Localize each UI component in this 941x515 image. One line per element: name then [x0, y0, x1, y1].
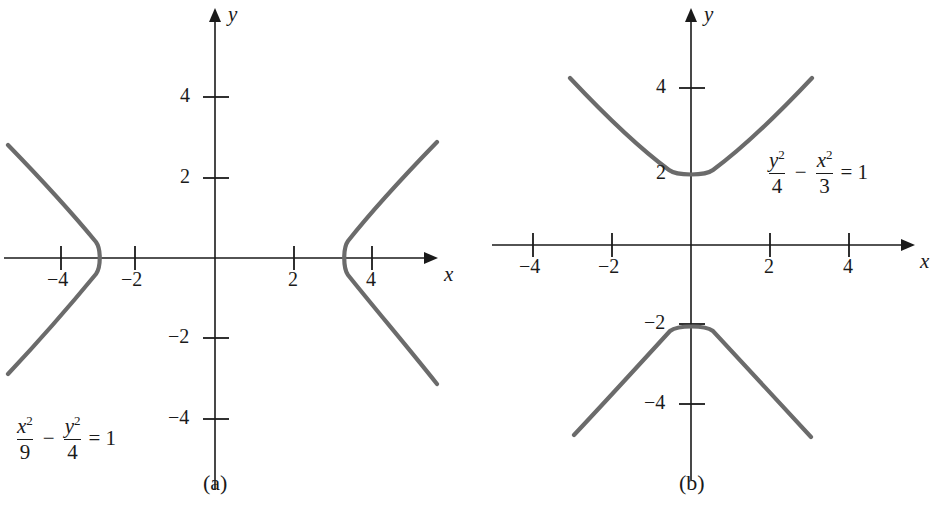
equation-operator: − [41, 426, 57, 451]
equation-num-var-2: y [65, 414, 74, 438]
y-axis-arrowhead [685, 8, 697, 22]
panel-b: −4 −2 2 4 4 2 −2 −4 x y y2 4 − x2 3 = 1 … [470, 0, 941, 515]
equation-num-exp-2: 2 [74, 413, 81, 428]
x-axis-label: x [444, 262, 453, 287]
equation-num-var-2: x [817, 148, 826, 172]
equation-denominator-1: 4 [769, 173, 786, 198]
hyperbola-right-branch [344, 142, 437, 384]
hyperbola-left-branch [8, 145, 100, 374]
y-axis-label: y [228, 2, 237, 27]
equation-numerator-2: y2 [62, 414, 84, 439]
y-tick-label-4: 4 [180, 84, 190, 107]
x-tick-label-4: 4 [843, 255, 853, 278]
y-tick-label--4: −4 [168, 406, 189, 429]
equation-denominator-2: 3 [816, 173, 833, 198]
panel-b-plot [470, 0, 941, 515]
panel-b-label: (b) [679, 470, 705, 496]
equation-operator: − [793, 160, 809, 185]
equation-equals: = 1 [841, 160, 869, 185]
x-tick-label-2: 2 [288, 268, 298, 291]
y-tick-label--4: −4 [644, 391, 665, 414]
x-axis-arrowhead [901, 239, 915, 251]
equation-num-exp-2: 2 [826, 147, 833, 162]
x-axis-label: x [920, 249, 929, 274]
equation-numerator-1: x2 [14, 414, 36, 439]
y-tick-label-4: 4 [656, 75, 666, 98]
equation-num-exp-1: 2 [26, 413, 33, 428]
y-tick-label--2: −2 [644, 311, 665, 334]
x-tick-label--4: −4 [519, 255, 540, 278]
panel-a: −4 −2 2 4 4 2 −2 −4 x y x2 9 − y2 4 = 1 … [0, 0, 470, 515]
panel-a-equation: x2 9 − y2 4 = 1 [14, 414, 116, 463]
equation-denominator-1: 9 [17, 439, 34, 464]
panel-b-equation: y2 4 − x2 3 = 1 [766, 148, 868, 197]
x-tick-label--2: −2 [598, 255, 619, 278]
x-tick-label-2: 2 [764, 255, 774, 278]
equation-fraction-1: y2 4 [766, 148, 788, 197]
y-tick-label-2: 2 [180, 165, 190, 188]
hyperbola-lower-branch [574, 327, 811, 438]
equation-fraction-2: x2 3 [814, 148, 836, 197]
equation-numerator-1: y2 [766, 148, 788, 173]
equation-fraction-1: x2 9 [14, 414, 36, 463]
equation-num-var-1: x [17, 414, 26, 438]
equation-fraction-2: y2 4 [62, 414, 84, 463]
y-tick-label-2: 2 [656, 161, 666, 184]
hyperbola-figure: −4 −2 2 4 4 2 −2 −4 x y x2 9 − y2 4 = 1 … [0, 0, 941, 515]
panel-a-label: (a) [203, 470, 227, 496]
y-axis-label: y [704, 2, 713, 27]
y-axis-arrowhead [209, 8, 221, 22]
x-axis-arrowhead [424, 252, 438, 264]
equation-denominator-2: 4 [64, 439, 81, 464]
equation-numerator-2: x2 [814, 148, 836, 173]
y-tick-label--2: −2 [168, 325, 189, 348]
equation-num-exp-1: 2 [778, 147, 785, 162]
x-tick-label-4: 4 [366, 268, 376, 291]
x-tick-label--2: −2 [121, 268, 142, 291]
x-tick-label--4: −4 [47, 268, 68, 291]
equation-num-var-1: y [769, 148, 778, 172]
equation-equals: = 1 [89, 426, 117, 451]
